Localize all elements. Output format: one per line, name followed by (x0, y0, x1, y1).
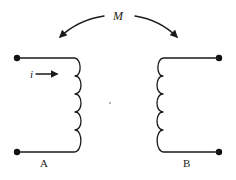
mutual-coupling-indicator: M (60, 9, 177, 37)
current-indicator: i (30, 68, 57, 80)
coupling-arrow-left (60, 16, 104, 37)
coil-b-label: B (183, 157, 190, 169)
mutual-inductance-label: M (112, 9, 124, 23)
mutual-inductance-diagram: M i A B (0, 0, 236, 180)
current-label: i (30, 68, 33, 80)
center-dot (109, 102, 111, 104)
coil-b: B (157, 55, 222, 169)
coil-b-winding (157, 58, 219, 152)
coil-a-winding (17, 58, 81, 152)
coil-a: i A (14, 55, 81, 169)
coil-a-label: A (40, 157, 48, 169)
coupling-arrow-right (135, 16, 177, 37)
